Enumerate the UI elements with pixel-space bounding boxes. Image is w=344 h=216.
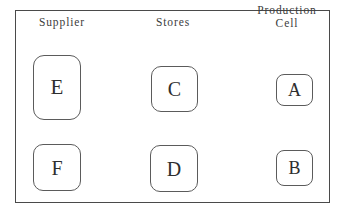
node-c-label: C (168, 79, 181, 99)
node-a-label: A (288, 81, 301, 99)
node-d[interactable]: D (150, 145, 198, 192)
node-f[interactable]: F (33, 144, 81, 191)
node-e[interactable]: E (33, 55, 81, 120)
node-f-label: F (51, 157, 62, 177)
column-label-production-cell-line-1: Production (245, 4, 329, 17)
node-e-label: E (51, 77, 64, 98)
node-c[interactable]: C (151, 66, 198, 112)
node-d-label: D (167, 158, 181, 178)
node-b-label: B (288, 159, 300, 177)
node-b[interactable]: B (276, 150, 313, 186)
diagram-canvas: Supplier Stores Production Cell E F C D … (0, 0, 344, 216)
column-label-supplier: Supplier (19, 16, 105, 29)
column-label-production-cell: Production Cell (245, 4, 329, 29)
column-label-stores: Stores (130, 16, 216, 29)
column-label-supplier-line-1: Supplier (19, 16, 105, 29)
node-a[interactable]: A (276, 74, 313, 106)
column-label-stores-line-1: Stores (130, 16, 216, 29)
column-label-production-cell-line-2: Cell (245, 17, 329, 30)
